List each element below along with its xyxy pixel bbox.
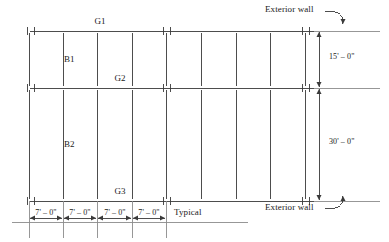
dimension-extension-lines — [12, 201, 248, 238]
exterior-wall-label-top: Exterior wall — [265, 5, 314, 14]
bay-dimension-4: 7' – 0" — [138, 209, 159, 217]
bay-dimension-2: 7' – 0" — [69, 209, 90, 217]
exterior-wall-leader-bottom — [325, 196, 343, 209]
vertical-dimension-label-15ft: 15' – 0" — [329, 53, 355, 61]
exterior-wall-leader-top — [325, 11, 343, 24]
exterior-wall-label-bottom: Exterior wall — [265, 203, 314, 212]
girder-label-g3: G3 — [114, 187, 125, 196]
framing-plan-diagram: G1 G2 G3 B1 B2 7' – 0" 7' – 0" 7' – 0" 7… — [0, 0, 389, 242]
typical-label: Typical — [174, 208, 202, 217]
bay-dimension-3: 7' – 0" — [104, 209, 125, 217]
vertical-dimension-label-30ft: 30' – 0" — [329, 138, 355, 146]
girder-label-g2: G2 — [114, 74, 125, 83]
beam-label-b2: B2 — [64, 140, 75, 149]
beam-label-b1: B1 — [64, 55, 75, 64]
girder-label-g1: G1 — [94, 17, 105, 26]
bay-dimension-1: 7' – 0" — [35, 209, 56, 217]
diagram-canvas — [0, 0, 389, 242]
